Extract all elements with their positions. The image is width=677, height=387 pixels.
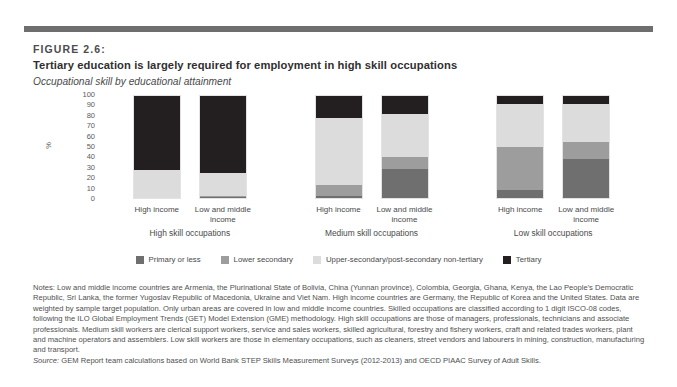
stacked-bar[interactable] bbox=[381, 95, 429, 199]
bar-segment bbox=[497, 190, 543, 198]
y-axis-tick: 80 bbox=[87, 112, 95, 120]
y-axis-tick: 50 bbox=[87, 143, 95, 151]
notes-body: Notes: Low and middle income countries a… bbox=[33, 283, 644, 354]
legend-swatch bbox=[221, 256, 229, 264]
bar-segment bbox=[200, 197, 246, 198]
legend-item[interactable]: Upper-secondary/post-secondary non-terti… bbox=[313, 255, 483, 264]
source-label: Source: bbox=[33, 356, 59, 365]
bar-segment bbox=[382, 114, 428, 157]
chart-plot-area: % 1009080706050403020100 High incomeLow … bbox=[33, 95, 644, 245]
stacked-bar[interactable] bbox=[315, 95, 363, 199]
legend-label: Lower secondary bbox=[234, 255, 293, 264]
top-rule-divider bbox=[24, 26, 653, 32]
bar-label: Low and middle income bbox=[186, 205, 260, 224]
bar-column[interactable]: High income bbox=[133, 95, 181, 245]
bar-segment bbox=[134, 170, 180, 198]
figure-panel: FIGURE 2.6: Tertiary education is largel… bbox=[0, 0, 677, 387]
legend-item[interactable]: Lower secondary bbox=[221, 255, 293, 264]
y-axis-tick: 100 bbox=[82, 91, 95, 99]
bar-segment bbox=[563, 96, 609, 104]
bar-segment bbox=[134, 96, 180, 170]
bar-segment bbox=[382, 96, 428, 114]
y-axis-tick: 40 bbox=[87, 154, 95, 162]
bar-column[interactable]: Low and middle income bbox=[381, 95, 429, 245]
legend-label: Tertiary bbox=[516, 255, 542, 264]
source-text: GEM Report team calculations based on Wo… bbox=[59, 356, 541, 365]
bar-segment bbox=[316, 96, 362, 118]
legend-swatch bbox=[503, 256, 511, 264]
legend-item[interactable]: Primary or less bbox=[136, 255, 201, 264]
bar-label: High income bbox=[120, 205, 194, 215]
legend-item[interactable]: Tertiary bbox=[503, 255, 542, 264]
figure-source: Source: GEM Report team calculations bas… bbox=[33, 356, 645, 366]
bar-segment bbox=[497, 104, 543, 147]
y-axis-tick: 10 bbox=[87, 185, 95, 193]
bar-label: Low and middle income bbox=[368, 205, 442, 224]
figure-subtitle: Occupational skill by educational attain… bbox=[33, 76, 231, 87]
bar-segment bbox=[316, 196, 362, 198]
bar-segment bbox=[563, 159, 609, 198]
bar-column[interactable]: Low and middle income bbox=[199, 95, 247, 245]
y-axis-tick: 20 bbox=[87, 174, 95, 182]
figure-notes: Notes: Low and middle income countries a… bbox=[33, 283, 645, 366]
figure-number: FIGURE 2.6: bbox=[33, 43, 106, 55]
bar-label: Low and middle income bbox=[549, 205, 623, 224]
legend-swatch bbox=[313, 256, 321, 264]
y-axis-tick: 30 bbox=[87, 164, 95, 172]
y-axis-title: % bbox=[44, 142, 53, 149]
bar-group: High incomeLow and middle incomeHigh ski… bbox=[99, 95, 281, 245]
bar-label: High income bbox=[483, 205, 557, 215]
bar-segment bbox=[316, 118, 362, 184]
y-axis-tick: 90 bbox=[87, 102, 95, 110]
legend-swatch bbox=[136, 256, 144, 264]
bar-segment bbox=[563, 142, 609, 159]
bar-segment bbox=[382, 157, 428, 169]
figure-title: Tertiary education is largely required f… bbox=[33, 59, 457, 71]
chart-legend: Primary or lessLower secondaryUpper-seco… bbox=[33, 255, 644, 264]
y-axis-ticks: 1009080706050403020100 bbox=[67, 95, 95, 199]
bar-column[interactable]: High income bbox=[496, 95, 544, 245]
group-label: Low skill occupations bbox=[462, 228, 644, 238]
stacked-bar[interactable] bbox=[562, 95, 610, 199]
stacked-bar[interactable] bbox=[496, 95, 544, 199]
group-label: High skill occupations bbox=[99, 228, 281, 238]
bar-groups: High incomeLow and middle incomeHigh ski… bbox=[99, 95, 644, 245]
y-axis-tick: 60 bbox=[87, 133, 95, 141]
stacked-bar[interactable] bbox=[133, 95, 181, 199]
bar-column[interactable]: High income bbox=[315, 95, 363, 245]
bar-segment bbox=[200, 173, 246, 196]
bar-segment bbox=[497, 96, 543, 104]
legend-label: Primary or less bbox=[149, 255, 201, 264]
y-axis-tick: 70 bbox=[87, 122, 95, 130]
bar-segment bbox=[316, 185, 362, 196]
bar-group: High incomeLow and middle incomeLow skil… bbox=[462, 95, 644, 245]
bar-group: High incomeLow and middle incomeMedium s… bbox=[281, 95, 463, 245]
bar-column[interactable]: Low and middle income bbox=[562, 95, 610, 245]
y-axis-tick: 0 bbox=[91, 195, 95, 203]
group-label: Medium skill occupations bbox=[281, 228, 463, 238]
stacked-bar[interactable] bbox=[199, 95, 247, 199]
bar-segment bbox=[200, 96, 246, 173]
bar-segment bbox=[563, 104, 609, 142]
bar-segment bbox=[497, 147, 543, 190]
bar-segment bbox=[382, 169, 428, 198]
bar-label: High income bbox=[302, 205, 376, 215]
legend-label: Upper-secondary/post-secondary non-terti… bbox=[326, 255, 483, 264]
